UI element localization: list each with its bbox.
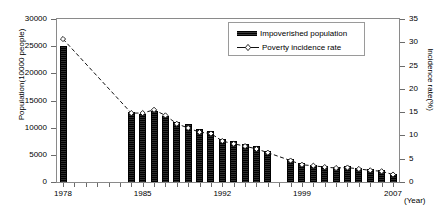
- x-axis-tick: [359, 183, 360, 187]
- x-axis-tick: [234, 183, 235, 187]
- x-axis-tick: [382, 183, 383, 187]
- y-axis-right-tick-label: 15: [409, 107, 418, 116]
- y-axis-left-tick-label: 5000: [3, 150, 47, 159]
- x-axis-tick-label: 1985: [123, 189, 163, 198]
- x-axis-tick: [245, 183, 246, 187]
- y-axis-left-tick-label: 15000: [3, 96, 47, 105]
- line-marker-diamond: [197, 130, 202, 135]
- x-axis-tick: [268, 183, 269, 187]
- y-axis-left-tick-label: 10000: [3, 123, 47, 132]
- x-axis-tick: [222, 183, 223, 187]
- x-axis-tick: [336, 183, 337, 187]
- y-axis-right-tick-label: 20: [409, 84, 418, 93]
- legend-item-poverty-incidence-rate: Poverty incidence rate: [237, 41, 341, 53]
- x-axis-tick: [325, 183, 326, 187]
- x-axis-tick: [279, 183, 280, 187]
- x-axis-tick: [211, 183, 212, 187]
- x-axis-tick: [143, 183, 144, 187]
- line-marker-diamond: [220, 138, 225, 143]
- line-marker-diamond: [311, 163, 316, 168]
- y-axis-right-tick: [400, 66, 405, 67]
- x-axis-tick: [109, 183, 110, 187]
- line-marker-diamond: [186, 125, 191, 130]
- x-axis-tick: [86, 183, 87, 187]
- legend-label: Poverty incidence rate: [262, 43, 341, 52]
- line-marker-diamond: [322, 164, 327, 169]
- legend-bar-swatch-icon: [237, 31, 257, 36]
- line-marker-diamond: [174, 121, 179, 126]
- x-axis-tick: [256, 183, 257, 187]
- line-marker-diamond: [390, 172, 395, 177]
- y-axis-right-tick-label: 10: [409, 130, 418, 139]
- x-axis-tick: [154, 183, 155, 187]
- chart-figure: Population(10000 people) Incidence rate(…: [0, 0, 446, 220]
- x-axis-tick: [165, 183, 166, 187]
- y-axis-left-tick-label: 20000: [3, 68, 47, 77]
- y-axis-right-tick-label: 25: [409, 61, 418, 70]
- line-marker-diamond: [242, 144, 247, 149]
- line-marker-diamond: [208, 131, 213, 136]
- x-axis-tick-label: 2007: [373, 189, 413, 198]
- x-axis-tick: [177, 183, 178, 187]
- x-axis-tick: [291, 183, 292, 187]
- legend-line-diamond-icon: [237, 43, 259, 52]
- y-axis-right-tick-label: 0: [409, 177, 413, 186]
- x-axis-tick: [131, 183, 132, 187]
- line-marker-diamond: [345, 165, 350, 170]
- line-marker-diamond: [265, 150, 270, 155]
- x-axis-tick: [200, 183, 201, 187]
- line-marker-diamond: [151, 107, 156, 112]
- line-marker-diamond: [288, 158, 293, 163]
- x-axis-tick-label: 1978: [43, 189, 83, 198]
- y-axis-right-title: Incidence rate(%): [426, 5, 435, 155]
- x-axis-tick: [302, 183, 303, 187]
- y-axis-right-tick: [400, 182, 405, 183]
- x-axis-tick: [120, 183, 121, 187]
- y-axis-right-tick: [400, 135, 405, 136]
- x-axis-tick: [393, 183, 394, 187]
- x-axis-tick: [313, 183, 314, 187]
- y-axis-right-tick: [400, 112, 405, 113]
- y-axis-left-tick-label: 25000: [3, 41, 47, 50]
- line-marker-diamond: [334, 165, 339, 170]
- chart-legend: Impoverished population Poverty incidenc…: [228, 22, 365, 56]
- line-marker-diamond: [299, 162, 304, 167]
- line-marker-diamond: [368, 168, 373, 173]
- x-axis-tick: [188, 183, 189, 187]
- line-marker-diamond: [254, 146, 259, 151]
- x-axis-tick-label: 1999: [282, 189, 322, 198]
- line-path: [63, 39, 393, 175]
- line-marker-diamond: [379, 169, 384, 174]
- x-axis-tick: [347, 183, 348, 187]
- line-marker-diamond: [140, 110, 145, 115]
- y-axis-left-tick-label: 30000: [3, 14, 47, 23]
- line-marker-diamond: [356, 166, 361, 171]
- y-axis-left-tick-label: 0: [3, 177, 47, 186]
- y-axis-right-tick-label: 30: [409, 37, 418, 46]
- x-axis-tick: [97, 183, 98, 187]
- y-axis-right-tick: [400, 159, 405, 160]
- y-axis-right-tick: [400, 89, 405, 90]
- legend-item-impoverished-population: Impoverished population: [237, 27, 347, 39]
- x-axis-tick: [370, 183, 371, 187]
- x-axis-tick: [74, 183, 75, 187]
- line-marker-diamond: [231, 141, 236, 146]
- y-axis-right-tick-label: 5: [409, 154, 413, 163]
- legend-label: Impoverished population: [260, 29, 347, 38]
- x-axis-tick: [63, 183, 64, 187]
- y-axis-right-tick-label: 35: [409, 14, 418, 23]
- y-axis-right-tick: [400, 19, 405, 20]
- x-axis-tick-label: 1992: [202, 189, 242, 198]
- y-axis-right-tick: [400, 42, 405, 43]
